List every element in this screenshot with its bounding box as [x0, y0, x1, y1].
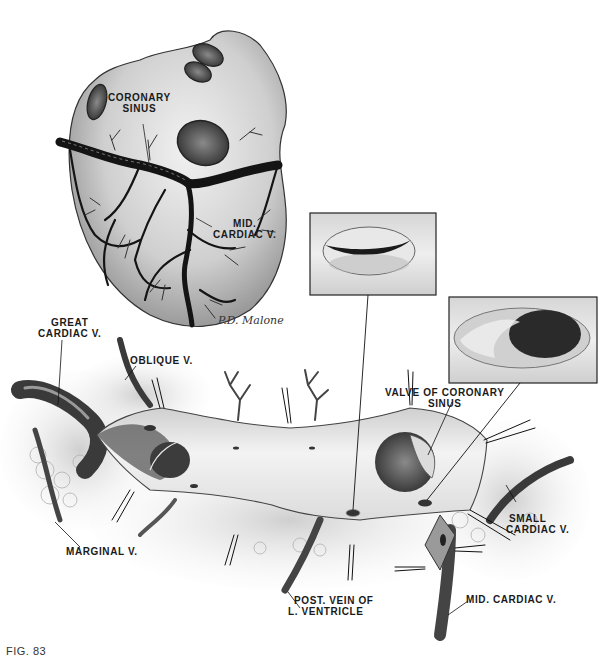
- label-great-cardiac-v: GREAT CARDIAC V.: [38, 317, 101, 339]
- label-marginal-v: MARGINAL V.: [66, 546, 138, 557]
- figure-caption: FIG. 83: [6, 645, 46, 657]
- label-oblique-v: OBLIQUE V.: [130, 355, 193, 366]
- opened-coronary-sinus-view: [0, 340, 590, 635]
- label-mid-cardiac-v-heart: MID. CARDIAC V.: [213, 218, 276, 240]
- label-small-cardiac-v: SMALL CARDIAC V.: [506, 513, 569, 535]
- label-coronary-sinus: CORONARY SINUS: [108, 92, 171, 114]
- label-mid-cardiac-v-lower: MID. CARDIAC V.: [466, 594, 556, 605]
- label-valve-of-coronary-sinus: VALVE OF CORONARY SINUS: [385, 387, 504, 409]
- heart-posterior-view: [60, 31, 286, 327]
- artist-signature: P.D. Malone: [218, 314, 284, 327]
- label-post-vein-lv: POST. VEIN OF L. VENTRICLE: [288, 595, 373, 617]
- anatomical-figure: CORONARY SINUS MID. CARDIAC V. P.D. Malo…: [0, 0, 615, 667]
